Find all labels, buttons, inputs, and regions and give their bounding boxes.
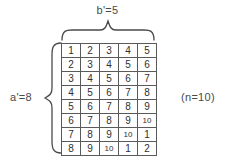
grid-cell: 6 [62, 114, 81, 128]
grid-cell: 2 [81, 44, 100, 58]
diagram-root: b'=5 a'=8 123452345634567456785678967891… [0, 0, 238, 167]
grid-cell: 1 [138, 128, 157, 142]
grid-cell: 4 [119, 44, 138, 58]
grid-cell: 7 [81, 114, 100, 128]
grid-cell: 5 [100, 72, 119, 86]
grid-cell: 7 [100, 100, 119, 114]
grid-cell: 9 [81, 142, 100, 156]
grid-cell: 7 [62, 128, 81, 142]
grid-cell: 8 [100, 114, 119, 128]
grid-row: 891012 [62, 142, 157, 156]
grid-cell: 5 [119, 58, 138, 72]
grid-cell: 4 [62, 86, 81, 100]
modulus-note: (n=10) [181, 91, 215, 103]
grid-cell: 5 [81, 86, 100, 100]
grid-cell: 3 [62, 72, 81, 86]
grid-cell: 5 [138, 44, 157, 58]
grid-cell: 10 [119, 128, 138, 142]
row-count-label: a'=8 [10, 91, 32, 103]
grid-cell: 2 [62, 58, 81, 72]
grid-cell: 10 [138, 114, 157, 128]
grid-row: 45678 [62, 86, 157, 100]
grid-cell: 8 [138, 86, 157, 100]
grid-row: 789101 [62, 128, 157, 142]
grid-cell: 8 [119, 100, 138, 114]
grid-cell: 10 [100, 142, 119, 156]
grid-row: 56789 [62, 100, 157, 114]
grid-cell: 2 [138, 142, 157, 156]
grid-cell: 9 [119, 114, 138, 128]
grid-cell: 7 [119, 86, 138, 100]
grid-table: 1234523456345674567856789678910789101891… [61, 43, 157, 156]
grid-cell: 6 [119, 72, 138, 86]
left-curly-brace [44, 41, 62, 155]
grid-cell: 1 [62, 44, 81, 58]
grid-cell: 6 [100, 86, 119, 100]
top-curly-brace [58, 19, 158, 41]
grid-cell: 9 [138, 100, 157, 114]
grid-cell: 1 [119, 142, 138, 156]
grid-cell: 3 [100, 44, 119, 58]
grid-body: 1234523456345674567856789678910789101891… [62, 44, 157, 156]
grid-row: 12345 [62, 44, 157, 58]
grid-cell: 4 [81, 72, 100, 86]
grid-row: 34567 [62, 72, 157, 86]
grid-cell: 8 [62, 142, 81, 156]
grid-cell: 9 [100, 128, 119, 142]
grid-cell: 7 [138, 72, 157, 86]
grid-row: 23456 [62, 58, 157, 72]
value-grid: 1234523456345674567856789678910789101891… [61, 43, 157, 156]
grid-cell: 6 [138, 58, 157, 72]
grid-cell: 6 [81, 100, 100, 114]
grid-row: 678910 [62, 114, 157, 128]
grid-cell: 4 [100, 58, 119, 72]
grid-cell: 3 [81, 58, 100, 72]
column-count-label: b'=5 [62, 4, 153, 16]
grid-cell: 5 [62, 100, 81, 114]
grid-cell: 8 [81, 128, 100, 142]
